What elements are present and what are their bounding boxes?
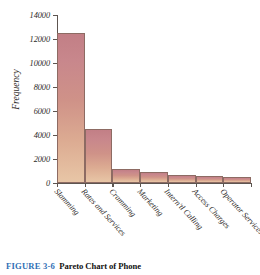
y-tick-label: 0 (46, 179, 50, 188)
x-tick-label: Marketing (135, 187, 165, 218)
y-tick-label: 8000 (34, 83, 50, 92)
bar (168, 175, 196, 183)
y-tick-label: 10000 (30, 59, 50, 68)
x-tick-label: Slamming (52, 187, 81, 217)
figure-container: Frequency 020004000600080001000012000140… (0, 0, 260, 275)
y-tick-label: 4000 (34, 131, 50, 140)
bar (223, 177, 251, 183)
y-tick-label: 14000 (30, 11, 50, 20)
bar (85, 129, 113, 183)
bar (140, 172, 168, 183)
pareto-chart: Frequency 020004000600080001000012000140… (0, 0, 260, 258)
bars-layer (57, 15, 251, 183)
bar (57, 33, 85, 183)
figure-caption: FIGURE 3-6 Pareto Chart of Phone (6, 261, 256, 271)
y-tick-label: 2000 (34, 155, 50, 164)
y-tick-label: 6000 (34, 107, 50, 116)
y-axis-title: Frequency (10, 54, 21, 126)
x-tick-mark (251, 183, 252, 187)
bar (196, 176, 224, 183)
bar (112, 169, 140, 183)
figure-caption-label: FIGURE 3-6 (6, 261, 55, 271)
figure-caption-text: Pareto Chart of Phone (59, 261, 141, 271)
y-tick-label: 12000 (30, 35, 50, 44)
